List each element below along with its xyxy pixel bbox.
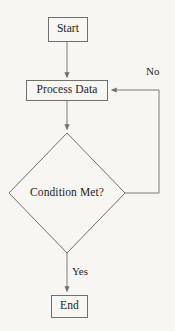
edge-decision-to-process-no [112,90,160,193]
edge-label-no: No [146,66,159,77]
node-decision-label: Condition Met? [7,187,127,199]
edge-label-yes: Yes [72,266,88,277]
node-start-label: Start [48,23,88,35]
flowchart-svg [0,0,175,331]
node-process-label: Process Data [26,84,108,96]
flowchart-canvas: Start Process Data Condition Met? End No… [0,0,175,331]
node-end-label: End [51,300,88,312]
